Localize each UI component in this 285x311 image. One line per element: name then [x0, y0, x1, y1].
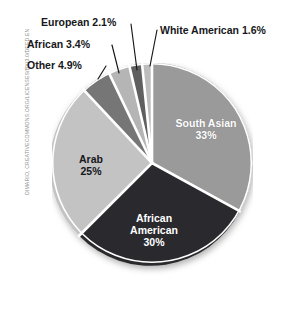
slice-label-african-american: African American 30% — [113, 212, 195, 249]
slice-label-european: European 2.1% — [41, 17, 116, 29]
slice-label-arab-value: 25% — [62, 165, 120, 177]
slice-label-arab-name: Arab — [62, 153, 120, 165]
slice-label-african-american-line1: African — [113, 212, 195, 224]
slice-label-african: African 3.4% — [27, 39, 90, 51]
slice-label-south-asian-value: 33% — [168, 129, 244, 141]
slice-label-white-american: White American 1.6% — [160, 25, 266, 37]
leader-line-white-american — [150, 30, 157, 66]
slice-label-south-asian-name: South Asian — [168, 117, 244, 129]
slice-label-south-asian: South Asian 33% — [168, 117, 244, 141]
pie-chart-figure: DIMARIO, CREATIVECOMMONS.ORG/LICENSES/BY… — [0, 0, 285, 311]
slice-label-african-american-value: 30% — [113, 236, 195, 248]
slice-label-african-american-line2: American — [113, 224, 195, 236]
slice-label-arab: Arab 25% — [62, 153, 120, 177]
slice-label-other: Other 4.9% — [27, 60, 82, 72]
